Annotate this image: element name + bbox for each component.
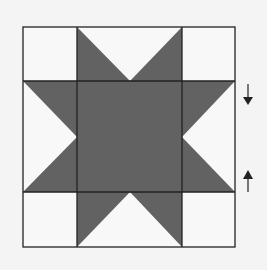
arrow-up-icon xyxy=(243,170,253,192)
center-square xyxy=(77,81,182,192)
arrow-down-icon xyxy=(243,84,253,105)
quilt-block-diagram xyxy=(0,0,267,270)
